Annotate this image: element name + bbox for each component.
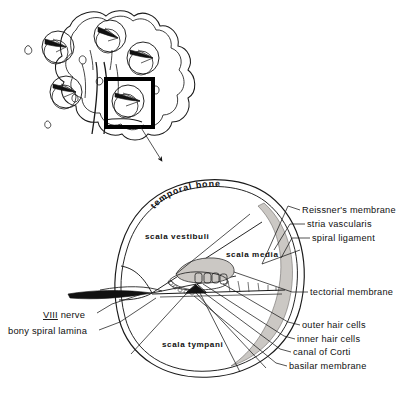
label-viii-nerve-numeral: VIII	[43, 309, 58, 320]
label-viii-nerve: VIII nerve	[43, 309, 85, 320]
label-scala-media: scala media	[226, 250, 279, 259]
label-canal-of-corti: canal of Corti	[293, 347, 351, 357]
cochlea-figure: temporal bone scala vestibuli scala medi…	[0, 0, 419, 401]
label-tectorial-membrane: tectorial membrane	[310, 287, 393, 297]
label-stria-vascularis: stria vascularis	[307, 219, 372, 229]
label-reissners-membrane: Reissner's membrane	[302, 205, 396, 215]
label-viii-nerve-word: nerve	[58, 309, 85, 320]
label-scala-tympani: scala tympani	[162, 340, 223, 349]
label-scala-vestibuli: scala vestibuli	[145, 232, 209, 241]
figure-canvas: temporal bone scala vestibuli scala medi…	[0, 0, 419, 401]
label-spiral-ligament: spiral ligament	[312, 233, 375, 243]
label-bony-spiral-lamina: bony spiral lamina	[8, 325, 88, 336]
label-inner-hair-cells: inner hair cells	[297, 334, 360, 344]
label-outer-hair-cells: outer hair cells	[302, 320, 366, 330]
label-basilar-membrane: basilar membrane	[289, 361, 367, 371]
